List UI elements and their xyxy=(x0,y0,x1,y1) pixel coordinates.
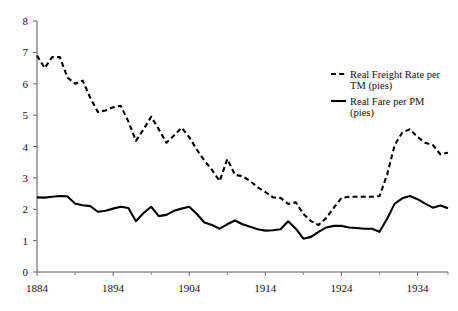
x-tick-label: 1904 xyxy=(178,282,201,294)
y-tick-label: 3 xyxy=(23,172,29,184)
y-tick-label: 0 xyxy=(23,266,29,278)
x-tick-label: 1924 xyxy=(330,282,353,294)
x-tick-label: 1894 xyxy=(102,282,125,294)
chart-tick-marks xyxy=(33,21,448,276)
y-tick-label: 2 xyxy=(23,203,29,215)
chart-axes xyxy=(37,21,448,272)
legend-label-1-line2: TM (pies) xyxy=(350,80,393,92)
series-line-2 xyxy=(37,196,448,239)
y-tick-label: 6 xyxy=(23,78,29,90)
x-axis-tick-labels: 188418941904191419241934 xyxy=(26,282,429,294)
line-chart: 012345678 188418941904191419241934 Real … xyxy=(0,0,458,311)
y-tick-label: 5 xyxy=(23,109,29,121)
x-tick-label: 1884 xyxy=(26,282,49,294)
x-tick-label: 1934 xyxy=(407,282,430,294)
chart-container: 012345678 188418941904191419241934 Real … xyxy=(0,0,458,311)
x-tick-label: 1914 xyxy=(254,282,277,294)
y-tick-label: 1 xyxy=(23,235,29,247)
y-axis-tick-labels: 012345678 xyxy=(23,15,29,278)
chart-legend: Real Freight Rate perTM (pies)Real Fare … xyxy=(331,69,441,119)
legend-label-2-line2: (pies) xyxy=(350,107,374,119)
y-tick-label: 4 xyxy=(23,141,29,153)
legend-label-2: Real Fare per PM xyxy=(350,96,425,107)
y-tick-label: 8 xyxy=(23,15,29,27)
legend-label-1: Real Freight Rate per xyxy=(350,69,441,80)
y-tick-label: 7 xyxy=(23,46,29,58)
